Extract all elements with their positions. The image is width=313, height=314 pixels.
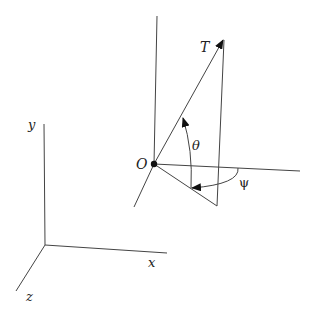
reference-axes [16,124,167,291]
projection-horizontal [154,164,217,206]
origin-point [151,161,157,167]
horizontal-axis [154,164,300,171]
psi-arc [192,168,238,188]
projection-vertical [217,40,224,206]
local-frame [134,16,300,207]
theta-arc [183,118,191,188]
z-axis [16,245,45,291]
origin-label: O [136,156,148,172]
psi-label: ψ [239,175,249,190]
y-axis-label: y [27,117,36,132]
x-axis [45,245,167,253]
vector-t-label: T [200,39,211,55]
x-axis-label: x [148,255,156,270]
y-axis [44,124,45,245]
theta-label: θ [192,138,200,153]
diagram-canvas: y x z T O θ ψ [0,0,313,314]
vector-t [154,40,223,164]
vertical-axis [154,16,157,164]
z-axis-label: z [25,289,33,304]
